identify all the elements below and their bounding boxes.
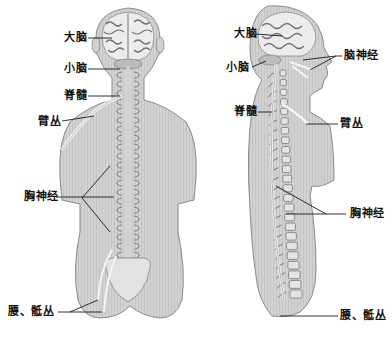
- label-back-brachial-plexus: 臂丛: [38, 116, 61, 128]
- side-vertebra: [289, 280, 301, 288]
- side-vertebra: [281, 137, 289, 144]
- side-vertebra: [280, 89, 287, 95]
- side-vertebra: [282, 156, 290, 163]
- side-vertebra: [283, 175, 292, 182]
- label-side-cerebrum: 大脑: [234, 28, 257, 40]
- back-view-figure: [60, 8, 197, 318]
- label-side-brachial-plexus: 臂丛: [340, 118, 363, 130]
- side-vertebra: [282, 147, 290, 154]
- back-left-ear: [92, 37, 100, 53]
- side-cerebellum: [259, 55, 281, 65]
- side-vertebra: [280, 80, 286, 86]
- side-vertebra: [290, 290, 302, 298]
- side-vertebra: [288, 261, 299, 269]
- label-back-lumbosacral-plexus: 腰、骶丛: [8, 306, 54, 318]
- side-vertebra: [286, 233, 296, 240]
- side-vertebra: [284, 194, 293, 201]
- side-vertebra: [285, 213, 295, 220]
- back-cerebrum: [102, 12, 154, 60]
- side-vertebra: [289, 271, 300, 279]
- back-right-ear: [156, 37, 164, 53]
- side-vertebra: [287, 242, 298, 250]
- label-side-cerebellum: 小脑: [226, 62, 249, 74]
- label-side-cranial-nerves: 脑神经: [344, 50, 379, 62]
- side-vertebra: [284, 204, 294, 211]
- side-vertebra: [285, 223, 295, 230]
- label-back-thoracic-nerves: 胸神经: [24, 191, 59, 203]
- label-side-spinal-cord: 脊髓: [234, 106, 257, 118]
- side-vertebra: [280, 70, 286, 76]
- side-vertebra: [281, 108, 288, 114]
- label-back-cerebellum: 小脑: [64, 63, 87, 75]
- side-vertebra: [281, 118, 288, 124]
- label-back-spinal-cord: 脊髓: [64, 90, 87, 102]
- side-vertebra: [281, 127, 289, 134]
- label-side-thoracic-nerves: 胸神经: [350, 208, 385, 220]
- side-view-figure: [248, 6, 334, 317]
- diagram-artwork: [0, 0, 392, 350]
- label-side-lumbosacral-plexus: 腰、骶丛: [340, 310, 386, 322]
- label-back-cerebrum: 大脑: [64, 32, 87, 44]
- side-vertebra: [287, 252, 298, 260]
- side-vertebra: [282, 166, 291, 173]
- nervous-system-diagram: 大脑 小脑 脊髓 臂丛 胸神经 腰、骶丛 大脑 小脑 脑神经 脊髓 臂丛 胸神经…: [0, 0, 392, 350]
